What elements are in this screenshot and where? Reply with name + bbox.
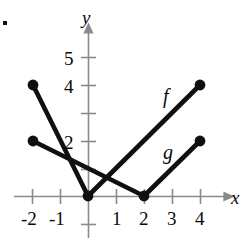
point-g-right-endpoint [195,136,206,147]
y-tick-label-2: 2 [64,133,74,152]
graph-figure: 5 4 2 -2 -1 1 2 3 4 y x f g [0,0,244,245]
x-tick-label-neg1: -1 [49,209,65,228]
y-tick-label-4: 4 [64,77,74,96]
point-f-right-endpoint [195,80,206,91]
point-f-left-endpoint [28,80,39,91]
x-tick-label-neg2: -2 [21,209,37,228]
x-tick-label-3: 3 [167,209,177,228]
y-tick-label-5: 5 [64,49,74,68]
x-tick-label-2: 2 [139,209,149,228]
point-g-vertex [139,191,150,202]
x-tick-label-1: 1 [112,209,122,228]
curve-label-f: f [163,86,169,106]
y-axis-label: y [82,8,90,27]
point-g-left-endpoint [28,136,39,147]
curve-label-g: g [163,142,173,162]
point-f-vertex [83,191,94,202]
curve-f [33,85,200,196]
x-tick-label-4: 4 [195,209,205,228]
x-axis-label: x [231,188,239,207]
